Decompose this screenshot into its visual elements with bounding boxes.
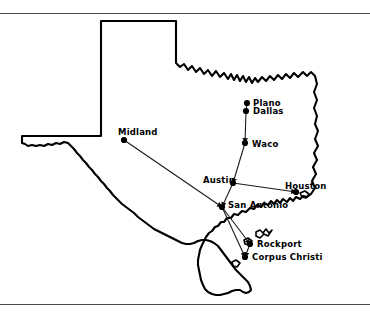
city-label-dallas: Dallas bbox=[253, 107, 284, 116]
city-marker-dallas[interactable] bbox=[243, 108, 249, 114]
city-marker-plano[interactable] bbox=[244, 100, 250, 106]
city-label-corpus-christi: Corpus Christi bbox=[252, 253, 323, 262]
route-midland-san-antonio bbox=[124, 140, 222, 207]
route-dallas-waco bbox=[245, 111, 246, 143]
texas-route-map-figure: PlanoDallasWacoMidlandAustinSan AntonioH… bbox=[0, 0, 370, 318]
city-marker-waco[interactable] bbox=[242, 140, 248, 146]
coastal-detail-galveston bbox=[300, 191, 309, 198]
city-marker-san-antonio[interactable] bbox=[219, 204, 225, 210]
city-label-austin: Austin bbox=[203, 176, 235, 185]
city-label-san-antonio: San Antonio bbox=[228, 201, 288, 210]
coastal-detail-corpus-bay bbox=[232, 260, 240, 267]
city-marker-midland[interactable] bbox=[121, 137, 127, 143]
city-marker-corpus-christi[interactable] bbox=[242, 254, 248, 260]
city-label-rockport: Rockport bbox=[257, 240, 302, 249]
city-label-houston: Houston bbox=[285, 182, 326, 191]
coastal-detail-rockport bbox=[256, 229, 272, 238]
city-label-midland: Midland bbox=[118, 128, 158, 137]
city-marker-rockport[interactable] bbox=[247, 241, 253, 247]
city-label-waco: Waco bbox=[252, 140, 279, 149]
texas-map-svg bbox=[0, 0, 370, 318]
